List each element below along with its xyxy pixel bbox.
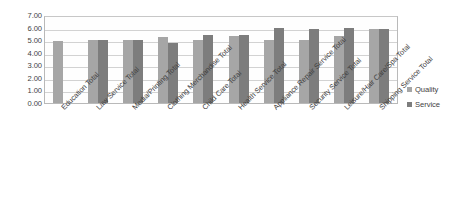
x-axis-tick-label: Law Service Total bbox=[95, 106, 100, 111]
y-axis-tick-label: 3.00 bbox=[28, 62, 42, 70]
x-axis-tick-label: Leisure/Hair Care/Spa Total bbox=[343, 106, 348, 111]
legend-item[interactable]: Quality bbox=[407, 86, 463, 94]
legend-swatch-icon bbox=[407, 102, 412, 107]
legend-label: Service bbox=[415, 101, 440, 109]
bar-chart: 7.006.005.004.003.002.001.000.00 Educati… bbox=[0, 0, 465, 212]
x-axis-tick-label: Education Total bbox=[60, 106, 65, 111]
y-axis-tick-label: 6.00 bbox=[28, 25, 42, 33]
bar-quality bbox=[53, 41, 63, 103]
y-axis: 7.006.005.004.003.002.001.000.00 bbox=[14, 16, 42, 104]
legend-swatch-icon bbox=[407, 87, 412, 92]
legend-label: Quality bbox=[415, 86, 438, 94]
x-axis-tick-label: Appliance Repair Service Total bbox=[272, 106, 277, 111]
y-axis-tick-label: 0.00 bbox=[28, 100, 42, 108]
x-axis-tick-label: Shipping Service Total bbox=[378, 106, 383, 111]
x-axis-tick-label: Health Service Total bbox=[237, 106, 242, 111]
y-axis-tick-label: 2.00 bbox=[28, 75, 42, 83]
x-axis-tick-label: Clothing Merchandise Total bbox=[166, 106, 171, 111]
y-axis-tick-label: 1.00 bbox=[28, 88, 42, 96]
x-axis-labels: Education TotalLaw Service TotalMedia/Pr… bbox=[44, 104, 398, 204]
bar-quality bbox=[369, 29, 379, 103]
x-axis-tick-label: Security Service Total bbox=[308, 106, 313, 111]
x-axis-tick-label: Child Care Total bbox=[201, 106, 206, 111]
chart-legend: QualityService bbox=[407, 86, 463, 115]
legend-item[interactable]: Service bbox=[407, 101, 463, 109]
x-axis-tick-label: Media/Printing Total bbox=[131, 106, 136, 111]
y-axis-tick-label: 5.00 bbox=[28, 37, 42, 45]
y-axis-tick-label: 4.00 bbox=[28, 50, 42, 58]
y-axis-tick-label: 7.00 bbox=[28, 12, 42, 20]
